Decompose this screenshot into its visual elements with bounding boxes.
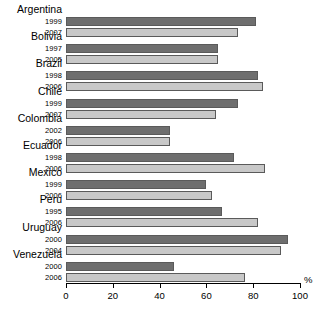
country-label-chile: Chile	[0, 86, 62, 97]
bar-argentina-2007	[66, 28, 238, 37]
bar-brazil-2006	[66, 82, 263, 91]
year-label-2000: 2000	[0, 261, 62, 272]
axis-tick-label-0: 0	[63, 290, 68, 301]
bar-ecuador-2006	[66, 164, 265, 173]
year-label-1999: 1999	[0, 98, 62, 109]
year-label-1998: 1998	[0, 70, 62, 81]
country-label-brazil: Brazil	[0, 58, 62, 69]
bar-colombia-2002	[66, 126, 170, 135]
bar-peru-2006	[66, 218, 258, 227]
bar-row: 2006	[0, 272, 324, 283]
axis-tick-label-100: 100	[292, 290, 308, 301]
country-label-mexico: Mexico	[0, 167, 62, 178]
axis-tick-label-60: 60	[201, 290, 212, 301]
bar-row: 1999	[0, 98, 324, 109]
year-label-1997: 1997	[0, 43, 62, 54]
country-label-colombia: Colombia	[0, 113, 62, 124]
bar-brazil-1998	[66, 71, 258, 80]
axis-tick-100	[300, 283, 301, 288]
bar-chart: Argentina19992007Bolivia19972005Brazil19…	[0, 0, 324, 316]
bar-venezuela-2000	[66, 262, 174, 271]
bar-row: 1998	[0, 70, 324, 81]
bar-venezuela-2006	[66, 273, 245, 282]
year-label-2006: 2006	[0, 272, 62, 283]
bar-uruguay-2000	[66, 235, 288, 244]
year-label-2002: 2002	[0, 125, 62, 136]
bar-peru-1995	[66, 207, 222, 216]
axis-tick-20	[113, 283, 114, 288]
axis-tick-label-80: 80	[248, 290, 259, 301]
bar-row: 2000	[0, 234, 324, 245]
axis-tick-label-20: 20	[108, 290, 119, 301]
bar-colombia-2006	[66, 137, 170, 146]
country-label-ecuador: Ecuador	[0, 140, 62, 151]
year-label-1998: 1998	[0, 152, 62, 163]
bar-chile-1999	[66, 99, 238, 108]
bar-mexico-2006	[66, 191, 212, 200]
axis-line	[66, 283, 300, 284]
bar-row: 2000	[0, 261, 324, 272]
bar-row: 1998	[0, 152, 324, 163]
bar-row: 1999	[0, 179, 324, 190]
bar-bolivia-2005	[66, 55, 218, 64]
x-axis: 020406080100 %	[0, 283, 324, 316]
bar-uruguay-2004	[66, 246, 281, 255]
bar-bolivia-1997	[66, 44, 218, 53]
year-label-1999: 1999	[0, 16, 62, 27]
bar-argentina-1999	[66, 17, 256, 26]
axis-tick-label-40: 40	[154, 290, 165, 301]
bar-row: 1999	[0, 16, 324, 27]
bar-chile-2007	[66, 110, 216, 119]
axis-tick-60	[206, 283, 207, 288]
country-label-argentina: Argentina	[0, 4, 62, 15]
axis-tick-80	[253, 283, 254, 288]
year-label-1995: 1995	[0, 206, 62, 217]
axis-unit-label: %	[304, 274, 312, 285]
bar-row: 2002	[0, 125, 324, 136]
year-label-1999: 1999	[0, 179, 62, 190]
bar-ecuador-1998	[66, 153, 234, 162]
axis-tick-40	[160, 283, 161, 288]
year-label-2000: 2000	[0, 234, 62, 245]
country-label-venezuela: Venezuela	[0, 249, 62, 260]
country-label-bolivia: Bolivia	[0, 31, 62, 42]
country-label-peru: Peru	[0, 194, 62, 205]
axis-tick-0	[66, 283, 67, 288]
country-label-uruguay: Uruguay	[0, 222, 62, 233]
bar-row: 1997	[0, 43, 324, 54]
bar-mexico-1999	[66, 180, 206, 189]
bar-row: 1995	[0, 206, 324, 217]
